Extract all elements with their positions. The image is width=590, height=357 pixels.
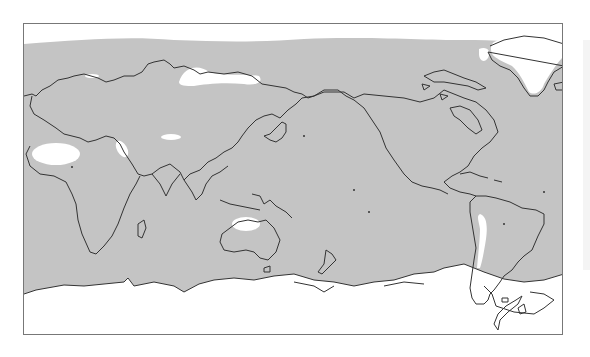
island-dot: [503, 223, 505, 225]
new-zealand-coastline: [318, 250, 336, 274]
world-map: [24, 24, 563, 335]
island-dot: [303, 135, 305, 137]
central-asia-unshaded-region: [161, 134, 181, 140]
arctic-islands-coastline: [422, 70, 486, 100]
caribbean-coastline: [460, 172, 502, 182]
greenland-unshaded-region: [491, 37, 563, 94]
arctic-unshaded-region: [24, 24, 563, 44]
south-asia-coastline: [152, 166, 228, 200]
island-dot: [71, 166, 73, 168]
page-edge-shadow: [583, 40, 590, 270]
island-dot: [353, 189, 355, 191]
island-dot: [368, 211, 370, 213]
japan-coastline: [264, 122, 286, 142]
siberia-unshaded-region: [179, 67, 261, 86]
tasmania-coastline: [264, 266, 270, 272]
north-america-coastline: [302, 90, 498, 196]
island-dot: [543, 191, 545, 193]
madagascar-coastline: [138, 220, 146, 238]
hudson-bay-coastline: [450, 106, 482, 134]
map-frame: [23, 23, 563, 335]
australia-unshaded-region: [232, 217, 260, 231]
iceland-coastline: [554, 82, 563, 90]
ellesmere-unshaded-region: [479, 48, 489, 61]
sahara-unshaded-region: [32, 143, 80, 165]
indonesia-coastline: [220, 194, 292, 218]
antarctic-unshaded-region: [24, 264, 563, 335]
andes-unshaded-region: [477, 214, 487, 268]
